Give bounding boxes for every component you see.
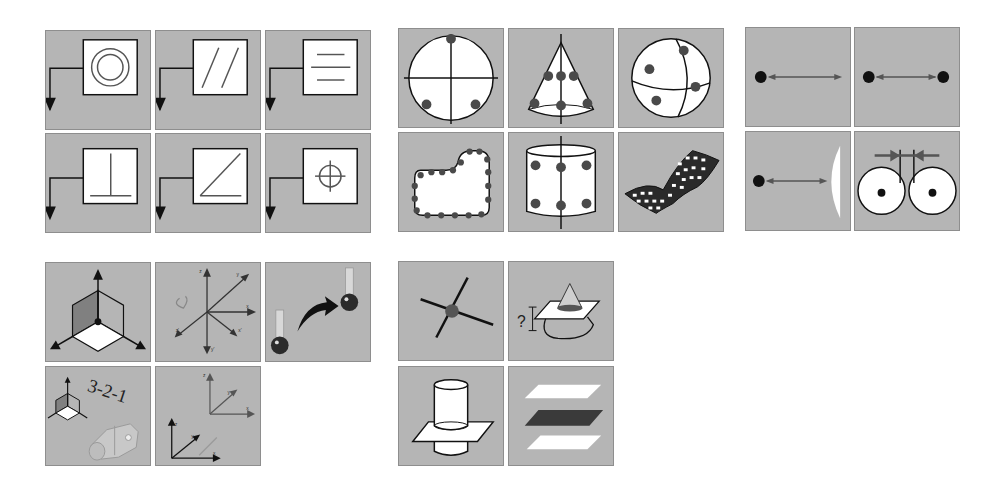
cone-feature-tile[interactable] [508, 28, 614, 128]
concentricity-tile[interactable] [45, 30, 151, 130]
axis-label-x-prime: x' [238, 328, 241, 333]
cylinder-plane-intersection-icon [399, 367, 503, 465]
sphere-feature-tile[interactable] [618, 28, 724, 128]
move-probe-tile[interactable] [265, 262, 371, 362]
axis-label-x: x [246, 406, 249, 411]
cylinder-feature-tile[interactable] [508, 132, 614, 232]
circle-gap-distance-icon [855, 132, 959, 230]
axis-label-z-2: z [175, 422, 178, 427]
cylinder-feature-icon [509, 133, 613, 231]
axis-label-y: y [236, 272, 239, 277]
intersection-point-icon [399, 262, 503, 360]
point-to-surface-distance-tile[interactable] [745, 131, 851, 231]
cone-plane-section-icon: ? [509, 262, 613, 360]
alignment-321-icon: 3-2-1 [46, 367, 150, 465]
move-probe-icon [266, 263, 370, 361]
coordinate-system-icon [46, 263, 150, 361]
flatness-tile[interactable] [265, 30, 371, 130]
surface-feature-tile[interactable] [618, 132, 724, 232]
axis-label-x: x [246, 304, 249, 309]
translate-frame-tile[interactable]: z y x z y x [155, 366, 261, 466]
mid-plane-icon [509, 367, 613, 465]
axis-label-z: z [199, 269, 202, 274]
rotate-axes-icon: z y x x' z' y' [156, 263, 260, 361]
intersection-point-tile[interactable] [398, 261, 504, 361]
circle-gap-distance-tile[interactable] [854, 131, 960, 231]
axis-label-x-2: x [213, 451, 216, 456]
parallelism-tile[interactable] [155, 30, 261, 130]
axis-label-y: y [228, 390, 231, 395]
axis-label-y-prime: y' [211, 347, 214, 352]
axis-label-z-prime: z' [176, 328, 179, 333]
flatness-icon [266, 31, 370, 129]
sphere-feature-icon [619, 29, 723, 127]
position-icon [266, 134, 370, 232]
rotate-axes-tile[interactable]: z y x x' z' y' [155, 262, 261, 362]
alignment-321-tile[interactable]: 3-2-1 [45, 366, 151, 466]
curve-feature-icon [399, 133, 503, 231]
coordinate-system-tile[interactable] [45, 262, 151, 362]
cylinder-plane-intersection-tile[interactable] [398, 366, 504, 466]
point-to-point-distance-icon [855, 28, 959, 126]
cone-feature-icon [509, 29, 613, 127]
cone-plane-section-tile[interactable]: ? [508, 261, 614, 361]
alignment-321-label: 3-2-1 [85, 375, 130, 407]
curve-feature-tile[interactable] [398, 132, 504, 232]
parallelism-icon [156, 31, 260, 129]
concentricity-icon [46, 31, 150, 129]
angularity-icon [156, 134, 260, 232]
perpendicularity-tile[interactable] [45, 133, 151, 233]
translate-frame-icon: z y x z y x [156, 367, 260, 465]
surface-feature-icon [619, 133, 723, 231]
position-tile[interactable] [265, 133, 371, 233]
angularity-tile[interactable] [155, 133, 261, 233]
question-mark-label: ? [517, 313, 526, 330]
point-distance-icon [746, 28, 850, 126]
point-distance-tile[interactable] [745, 27, 851, 127]
mid-plane-tile[interactable] [508, 366, 614, 466]
perpendicularity-icon [46, 134, 150, 232]
axis-label-z: z [203, 373, 206, 378]
circle-feature-icon [399, 29, 503, 127]
point-to-point-distance-tile[interactable] [854, 27, 960, 127]
circle-feature-tile[interactable] [398, 28, 504, 128]
point-to-surface-distance-icon [746, 132, 850, 230]
